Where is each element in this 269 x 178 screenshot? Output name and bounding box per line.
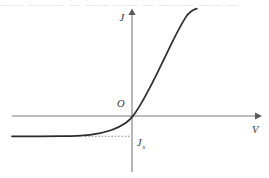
iv-characteristic-plot: J V O J s [0, 0, 269, 178]
x-axis-arrow-icon [255, 112, 262, 119]
origin-label: O [117, 98, 125, 109]
saturation-current-subscript: s [143, 143, 146, 150]
y-axis-label: J [120, 12, 126, 23]
diode-iv-figure: —— ——— — —— —— — ——— —— — J V O J s [0, 0, 269, 178]
saturation-current-label: J [137, 137, 142, 148]
y-axis-arrow-icon [128, 9, 135, 16]
diode-iv-curve [12, 9, 197, 137]
diode-curve-group [12, 9, 197, 137]
x-axis-label: V [252, 124, 260, 135]
plot-labels-group: J V O J s [117, 12, 260, 150]
